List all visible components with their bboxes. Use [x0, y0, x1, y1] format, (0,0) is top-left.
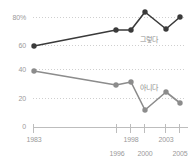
lower-point-1996	[113, 82, 118, 87]
lower-point-2005	[177, 100, 182, 105]
y-tick-label-20: 20	[2, 95, 26, 103]
lower-point-2003	[163, 89, 168, 94]
survey-line-chart: 80% 60 40 20 0 1983 1998 2003 1996 2000 …	[0, 0, 195, 168]
x-tick-label-2003: 2003	[153, 136, 179, 144]
upper-point-2000	[142, 9, 147, 14]
y-tick-label-0: 0	[2, 123, 26, 131]
x-tick-label-1996: 1996	[104, 150, 130, 158]
upper-point-1996	[113, 27, 118, 32]
y-tick-label-60: 60	[2, 42, 26, 50]
upper-polyline	[34, 12, 180, 46]
y-tick-label-80: 80%	[2, 14, 26, 22]
lower-point-2000	[142, 107, 147, 112]
series-line-lower	[34, 71, 180, 110]
gridline-group	[33, 18, 186, 99]
lower-point-1983	[31, 68, 36, 73]
x-axis	[33, 124, 188, 133]
lower-polyline	[34, 71, 180, 110]
series-label-upper: 그렇다	[140, 36, 157, 44]
series-label-lower: 아니다	[140, 84, 157, 92]
lower-point-1998	[128, 79, 133, 84]
upper-point-1998	[128, 27, 133, 32]
upper-point-1983	[31, 43, 36, 48]
upper-point-2005	[177, 14, 182, 19]
x-tick-label-2000: 2000	[132, 150, 158, 158]
upper-point-2003	[163, 26, 168, 31]
y-tick-label-40: 40	[2, 66, 26, 74]
series-line-upper	[34, 12, 180, 46]
x-tick-label-2005: 2005	[167, 150, 193, 158]
x-tick-label-1998: 1998	[118, 136, 144, 144]
x-tick-label-1983: 1983	[21, 136, 47, 144]
